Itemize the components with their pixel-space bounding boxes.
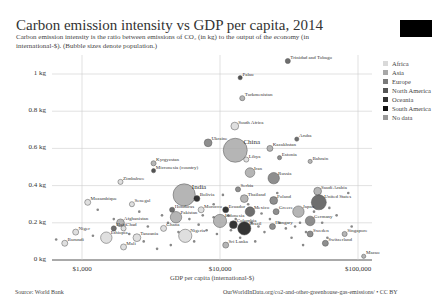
point-label: Ecuador <box>229 204 246 209</box>
data-point <box>260 212 263 215</box>
point-label: Nigeria <box>190 228 206 233</box>
point-label: Chad <box>126 222 137 227</box>
point-label: Bolivia <box>200 192 216 197</box>
point-label: Pakistan <box>180 210 197 215</box>
data-point <box>96 208 99 211</box>
point-label: China <box>243 138 261 146</box>
data-point <box>263 231 266 234</box>
data-point <box>188 218 191 221</box>
x-axis-label: GDP per capita (international-$) <box>170 274 254 281</box>
data-point <box>55 238 58 241</box>
point-label: Morocco <box>204 204 223 209</box>
data-point <box>142 240 145 243</box>
point-label: Estonia <box>282 152 298 157</box>
point-label: Kyrgyzstan <box>156 157 179 162</box>
data-point <box>254 240 257 243</box>
scatter-plot: Trinidad and TobagoPalauTurkmenistanSout… <box>0 0 448 303</box>
data-point <box>92 235 95 238</box>
y-tick-label: 0.8 kg <box>0 106 46 114</box>
data-point <box>302 244 305 247</box>
point-label: Bahrain <box>312 156 328 161</box>
data-point <box>247 203 250 206</box>
point-label: Honduras <box>175 204 194 209</box>
point-label: Aruba <box>299 133 312 138</box>
point-label: Poland <box>277 194 291 199</box>
point-label: Mali <box>126 241 136 246</box>
y-tick-label: 0 kg <box>0 255 46 263</box>
point-label: Iran <box>254 166 263 171</box>
data-point <box>193 240 196 243</box>
source-note: Source: World Bank <box>15 289 64 295</box>
point-label: United States <box>324 194 351 199</box>
data-point <box>156 248 159 251</box>
x-tick-label: $10,000 <box>209 265 232 273</box>
point-label: Ethiopia <box>111 230 129 235</box>
data-point <box>205 229 208 232</box>
point-label: Greece <box>279 205 294 210</box>
x-tick-label: $1,000 <box>72 265 91 273</box>
point-label: Mozambique <box>91 196 118 201</box>
point-label: Macao <box>366 250 380 255</box>
point-label: South Africa <box>238 120 264 125</box>
point-label: Ukraine <box>211 136 228 141</box>
data-point <box>269 218 272 221</box>
y-tick-label: 1 kg <box>0 69 46 77</box>
y-tick-label: 0.4 kg <box>0 181 46 189</box>
point-label: Japan <box>303 204 315 209</box>
point-label: India <box>192 183 207 191</box>
point-label: Germany <box>314 214 333 219</box>
data-point <box>299 222 302 225</box>
point-label: Micronesia (country) <box>156 165 199 170</box>
data-point <box>197 223 200 226</box>
point-label: Brazil <box>249 221 262 226</box>
y-tick-label: 0.2 kg <box>0 218 46 226</box>
point-label: Burundi <box>68 237 85 242</box>
data-point <box>313 210 316 213</box>
point-label: Libya <box>249 154 261 159</box>
point-label: Tanzania <box>140 231 159 236</box>
point-label: Turkmenistan <box>245 92 273 97</box>
data-point <box>305 231 308 234</box>
point-label: Zimbabwe <box>123 176 145 181</box>
y-tick-label: 0.6 kg <box>0 143 46 151</box>
point-label: Ghana <box>166 222 180 227</box>
data-point <box>290 236 293 239</box>
data-point <box>161 214 164 217</box>
data-point <box>230 229 233 232</box>
data-point <box>294 225 297 228</box>
data-point <box>138 210 141 213</box>
point-label: Singapore <box>347 228 368 233</box>
data-point <box>335 214 338 217</box>
data-point <box>113 218 116 221</box>
point-label: Sweden <box>313 228 329 233</box>
point-label: Kazakhstan <box>273 142 297 147</box>
point-label: Trinidad and Tobago <box>290 55 332 60</box>
point-label: Switzerland <box>328 237 352 242</box>
point-label: Saudi Arabia <box>321 185 348 190</box>
point-label: Hungary <box>275 220 293 225</box>
point-label: Palau <box>242 72 254 77</box>
x-tick-label: $100,000 <box>345 265 371 273</box>
point-label: Senegal <box>134 198 150 203</box>
data-point <box>216 233 219 236</box>
point-label: Afghanistan <box>124 216 149 221</box>
point-label: Mexico <box>254 205 270 210</box>
point-label: Thailand <box>248 192 266 197</box>
point-label: Sri Lanka <box>229 239 249 244</box>
point-label: Russia <box>278 171 292 176</box>
source-url-link[interactable]: OurWorldInData.org/co2-and-other-greenho… <box>223 289 398 295</box>
point-label: Serbia <box>241 183 255 188</box>
data-point <box>147 225 150 228</box>
data-point <box>201 214 204 217</box>
data-point <box>321 222 324 225</box>
data-point <box>169 244 172 247</box>
data-point <box>328 207 331 210</box>
data-point <box>285 227 288 230</box>
point-label: Niger <box>78 226 90 231</box>
data-point <box>222 194 225 197</box>
data-point <box>128 233 131 236</box>
